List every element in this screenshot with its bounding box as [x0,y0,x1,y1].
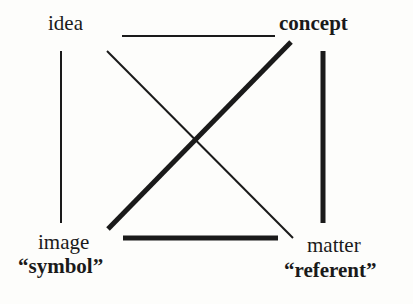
diagram-canvas: idea concept image “symbol” matter “refe… [0,0,413,304]
node-matter-sublabel: “referent” [284,259,377,281]
node-matter: matter [307,234,361,256]
node-concept: concept [279,12,348,34]
edge-concept-image [108,42,291,229]
node-idea: idea [48,12,83,34]
node-image: image [38,231,89,253]
edge-idea-matter [107,51,293,238]
node-image-sublabel: “symbol” [18,255,103,277]
